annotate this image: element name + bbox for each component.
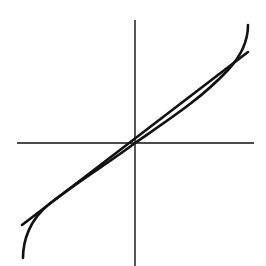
background (0, 0, 266, 266)
diagram-canvas (0, 0, 266, 266)
